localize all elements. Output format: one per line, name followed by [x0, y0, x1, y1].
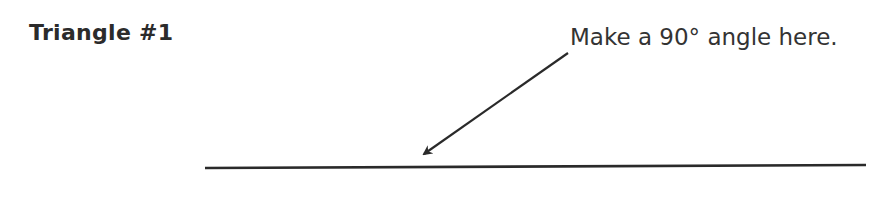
drawing-area [0, 0, 888, 223]
triangle-base-line [205, 165, 866, 168]
pointer-arrow-icon [424, 53, 568, 154]
